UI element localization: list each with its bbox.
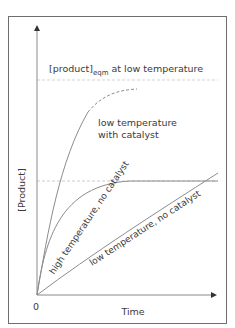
curve-low-temp-catalyst-extrapolated [88, 89, 137, 112]
x-axis-label: Time [120, 306, 144, 317]
equilibrium-label: [product]eqm at low temperature [49, 63, 203, 77]
reaction-rate-chart: [product]eqm at low temperature low temp… [0, 0, 235, 328]
curve-low-temp-catalyst [37, 112, 88, 295]
label-low-temp-catalyst-line1: low temperature [98, 117, 177, 128]
origin-label: 0 [33, 301, 39, 312]
label-low-temp-catalyst-line2: with catalyst [98, 129, 159, 140]
y-axis-label: [Product] [16, 168, 27, 211]
